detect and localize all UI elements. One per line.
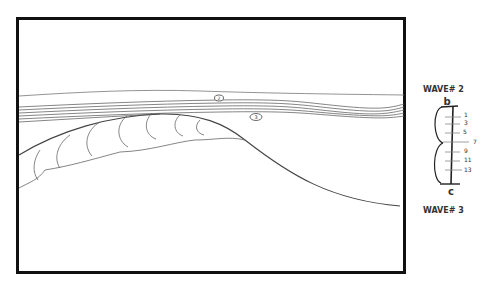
legend-bottom-letter: c: [448, 186, 454, 197]
legend-bottom-label: WAVE# 3: [423, 206, 464, 215]
svg-text:13: 13: [464, 166, 472, 173]
svg-text:3: 3: [464, 119, 468, 126]
svg-text:1: 1: [464, 111, 468, 118]
svg-text:11: 11: [464, 156, 472, 163]
wave-legend: WAVE# 2 b c WAVE# 3 1 3 5 7 9 11 13: [423, 85, 477, 215]
marker-2: 2: [215, 95, 224, 101]
storyboard-sketch: 2 3 WAVE# 2 b c WAVE# 3 1 3 5: [0, 0, 493, 283]
frame-border: [18, 19, 405, 273]
svg-text:2: 2: [218, 96, 221, 101]
svg-text:3: 3: [254, 114, 257, 120]
legend-top-letter: b: [443, 96, 450, 107]
svg-text:9: 9: [464, 147, 468, 154]
svg-text:7: 7: [473, 138, 477, 145]
legend-top-label: WAVE# 2: [423, 85, 464, 94]
svg-text:5: 5: [463, 128, 467, 135]
marker-3: 3: [250, 114, 262, 121]
